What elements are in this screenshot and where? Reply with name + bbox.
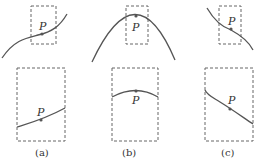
panel-b-point-p — [134, 14, 137, 17]
panel-b-caption: (b) — [122, 147, 136, 158]
panel-b-zoomed-point-p — [134, 89, 137, 92]
panel-b: P P (b) — [92, 6, 175, 158]
figure-diagram: P P (a) P P (b) P P (c) — [0, 0, 259, 162]
panel-c-zoomed-point-p — [228, 107, 231, 110]
panel-c-point-label: P — [227, 15, 236, 28]
panel-c: P P (c) — [205, 6, 253, 158]
panel-a: P P (a) — [2, 6, 67, 158]
panel-b-zoomed-point-label: P — [131, 94, 140, 107]
panel-a-curve — [2, 14, 67, 58]
panel-a-large-zoom-box — [17, 68, 65, 141]
figure-stage: P P (a) P P (b) P P (c) — [0, 0, 259, 162]
panel-c-caption: (c) — [221, 147, 235, 158]
panel-c-zoomed-point-label: P — [227, 94, 236, 107]
panel-a-zoomed-point-label: P — [36, 106, 45, 119]
panel-b-point-label: P — [131, 21, 140, 34]
panel-a-point-label: P — [38, 20, 47, 33]
panel-a-caption: (a) — [35, 147, 49, 158]
